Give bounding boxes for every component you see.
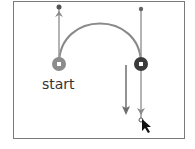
- start-anchor-point[interactable]: [52, 57, 66, 71]
- drag-direction-arrow: [122, 65, 130, 115]
- end-anchor-point[interactable]: [134, 57, 148, 71]
- start-label: start: [42, 77, 75, 91]
- bezier-curve: [59, 24, 141, 65]
- cursor-arrow-icon: [142, 119, 151, 133]
- handle-point-icon[interactable]: [139, 7, 143, 11]
- handle-point-icon[interactable]: [57, 5, 62, 10]
- anchor-square-icon: [139, 62, 143, 66]
- bezier-diagram: [0, 0, 195, 149]
- anchor-square-icon: [57, 62, 61, 66]
